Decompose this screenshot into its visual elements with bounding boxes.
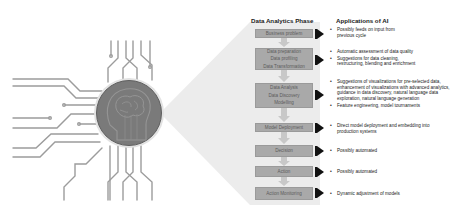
- pointer-arrow-icon: [317, 167, 324, 177]
- applications-model-deployment: Direct model deployment and embedding in…: [330, 123, 430, 135]
- applications-data-analysis: Suggestions of visualizations for pre-se…: [330, 79, 450, 109]
- phase-label: Action: [278, 168, 291, 175]
- pointer-arrow-icon: [317, 29, 324, 39]
- phase-box-data-analysis: Data Analysis Data Discovery Modelling: [255, 83, 313, 108]
- application-item: Possibly automated: [330, 148, 458, 154]
- phase-column-header: Data Analytics Phase: [251, 17, 313, 24]
- phase-label: Data Discovery: [268, 92, 299, 99]
- phase-box-model-deployment: Model Deployment: [255, 123, 313, 132]
- phase-label: Data preparation: [267, 48, 301, 55]
- projection-fan: [160, 22, 250, 205]
- application-item: Suggestions for data cleaning, restructu…: [330, 56, 420, 67]
- pointer-arrow-icon: [317, 123, 324, 133]
- pointer-arrow-icon: [317, 55, 324, 65]
- application-item: Possibly feeds on input from previous cy…: [330, 27, 410, 38]
- application-item: Dynamic adjustment of models: [330, 191, 458, 197]
- phase-box-action: Action: [255, 166, 313, 177]
- phase-label: Data Transformation: [263, 63, 305, 70]
- application-item: Possibly automated: [330, 169, 458, 175]
- pointer-arrow-icon: [317, 90, 324, 100]
- ai-data-analytics-diagram: Data Analytics Phase Applications of AI …: [0, 0, 458, 217]
- phase-label: Business problem: [266, 30, 303, 37]
- applications-business-problem: Possibly feeds on input from previous cy…: [330, 27, 410, 39]
- phase-label: Model Deployment: [265, 124, 303, 131]
- ai-brain-circuit-icon: [94, 78, 164, 148]
- application-item: Direct model deployment and embedding in…: [330, 123, 430, 134]
- applications-action: Possibly automated: [330, 169, 458, 176]
- phase-box-data-preparation: Data preparation Data profiling Data Tra…: [255, 48, 313, 70]
- applications-column-header: Applications of AI: [336, 17, 388, 24]
- phase-label: Data Analysis: [270, 84, 298, 91]
- phase-label: Decision: [275, 147, 293, 154]
- phase-label: Action Monitoring: [266, 190, 302, 197]
- applications-action-monitoring: Dynamic adjustment of models: [330, 191, 458, 198]
- applications-decision: Possibly automated: [330, 148, 458, 155]
- phase-box-decision: Decision: [255, 145, 313, 157]
- application-item: Feature engineering, model tournaments: [330, 103, 450, 109]
- phase-label: Modelling: [274, 99, 294, 106]
- phase-box-action-monitoring: Action Monitoring: [255, 187, 313, 200]
- phase-box-business-problem: Business problem: [255, 29, 313, 38]
- pointer-arrow-icon: [317, 188, 324, 198]
- phase-label: Data profiling: [270, 55, 297, 62]
- applications-data-preparation: Automatic assessment of data quality Sug…: [330, 49, 420, 68]
- pointer-arrow-icon: [317, 146, 324, 156]
- application-item: Automatic assessment of data quality: [330, 49, 420, 55]
- application-item: Suggestions of visualizations for pre-se…: [330, 79, 450, 101]
